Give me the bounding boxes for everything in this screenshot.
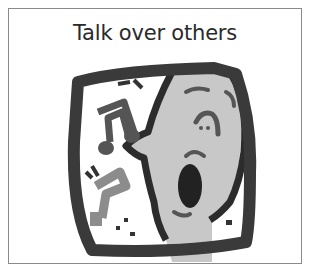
slide-title: Talk over others <box>9 21 301 45</box>
singing-face-with-music-notes-icon <box>62 62 262 262</box>
